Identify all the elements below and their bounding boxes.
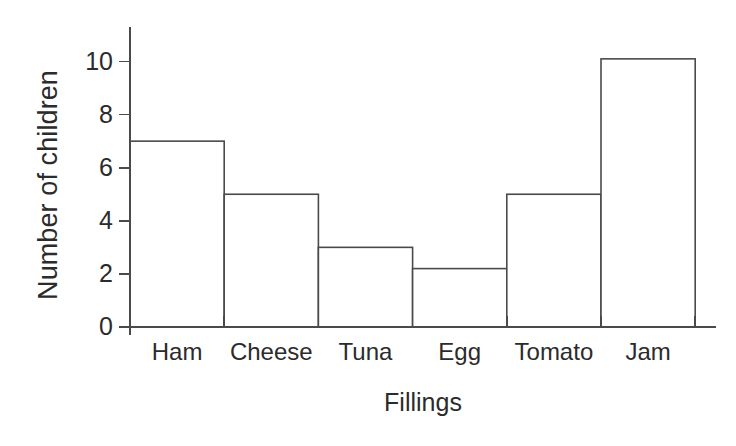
bar-tomato	[507, 194, 601, 327]
x-tick-label-tomato: Tomato	[507, 340, 601, 364]
bar-jam	[601, 59, 695, 327]
x-tick-label-cheese: Cheese	[224, 340, 318, 364]
x-tick-label-jam: Jam	[601, 340, 695, 364]
bar-cheese	[224, 194, 318, 327]
bar-tuna	[318, 247, 412, 327]
bars-group	[130, 59, 695, 327]
bar-chart: Number of children 0 2 4 6 8 10 Ham Chee…	[0, 0, 736, 446]
bar-egg	[413, 269, 507, 327]
x-tick-label-tuna: Tuna	[318, 340, 412, 364]
x-axis-title: Fillings	[130, 388, 716, 417]
plot-area	[0, 0, 736, 446]
bar-ham	[130, 141, 224, 327]
x-tick-label-egg: Egg	[413, 340, 507, 364]
x-tick-label-ham: Ham	[130, 340, 224, 364]
